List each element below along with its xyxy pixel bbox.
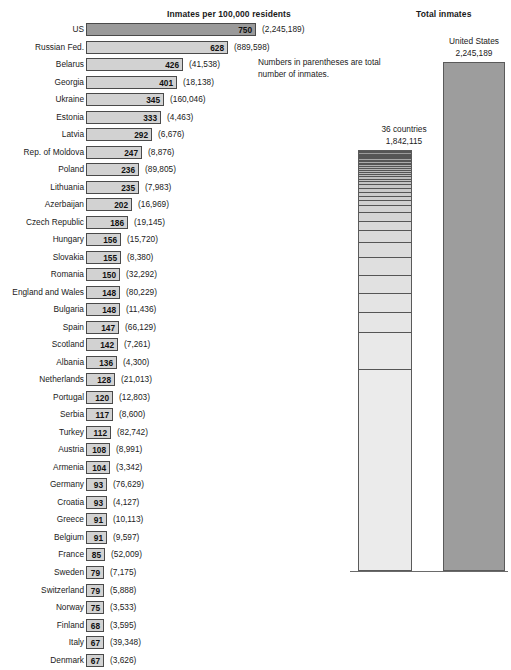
bar-value-label: 75 [91, 602, 100, 614]
value-bar: 117 [86, 408, 113, 421]
total-inmates-label: (3,595) [110, 620, 136, 631]
value-bar: 333 [86, 111, 161, 124]
total-inmates-label: (32,292) [126, 269, 157, 280]
value-bar: 136 [86, 356, 117, 369]
country-label: Switzerland [41, 585, 84, 596]
bar-value-label: 186 [110, 217, 124, 229]
value-bar: 104 [86, 461, 110, 474]
total-inmates-label: (16,969) [138, 199, 169, 210]
value-bar: 750 [86, 23, 256, 36]
bar-value-label: 93 [94, 479, 103, 491]
bar-value-label: 426 [165, 59, 179, 71]
value-bar: 147 [86, 321, 119, 334]
bar-value-label: 156 [103, 234, 117, 246]
value-bar: 202 [86, 198, 132, 211]
chart-row: Lithuania235(7,983) [0, 180, 350, 198]
bar-container: 85 [86, 548, 105, 561]
chart-row: Belgium91(9,597) [0, 530, 350, 548]
stack-segment [359, 294, 411, 313]
bar-container: 426 [86, 58, 183, 71]
total-inmates-label: (21,013) [121, 374, 152, 385]
bar-container: 79 [86, 584, 104, 597]
chart-row: France85(52,009) [0, 547, 350, 565]
us-bar-caption: United States 2,245,189 [422, 36, 511, 59]
chart-row: Germany93(76,629) [0, 477, 350, 495]
value-bar: 85 [86, 548, 105, 561]
value-bar: 68 [86, 619, 104, 632]
country-label: Turkey [59, 427, 84, 438]
bar-container: 628 [86, 41, 228, 54]
stack-segment [359, 333, 411, 369]
total-inmates-label: (4,127) [113, 497, 139, 508]
chart-row: Spain147(66,129) [0, 320, 350, 338]
bar-container: 120 [86, 391, 113, 404]
bar-container: 292 [86, 128, 152, 141]
bar-container: 91 [86, 531, 107, 544]
country-label: Netherlands [39, 374, 84, 385]
bar-value-label: 120 [95, 392, 109, 404]
total-inmates-label: (12,803) [119, 392, 150, 403]
value-bar: 93 [86, 478, 107, 491]
chart-row: Rep. of Moldova247(8,876) [0, 145, 350, 163]
value-bar: 150 [86, 268, 120, 281]
country-label: Slovakia [53, 252, 84, 263]
stack-segment [359, 313, 411, 333]
inmates-per-capita-chart: US750(2,245,189)Russian Fed.628(889,598)… [0, 22, 350, 670]
bar-container: 247 [86, 146, 142, 159]
bar-container: 104 [86, 461, 110, 474]
value-bar: 128 [86, 373, 115, 386]
stack-segment [359, 258, 411, 275]
bar-container: 79 [86, 566, 104, 579]
chart-row: Croatia93(4,127) [0, 495, 350, 513]
bar-container: 117 [86, 408, 113, 421]
bar-container: 333 [86, 111, 161, 124]
bar-value-label: 333 [143, 112, 157, 124]
total-inmates-label: (7,175) [110, 567, 136, 578]
country-label: Norway [56, 602, 84, 613]
country-label: Estonia [56, 112, 84, 123]
countries-bar-caption-line2: 1,842,115 [352, 136, 456, 148]
bar-value-label: 128 [97, 374, 111, 386]
bar-value-label: 235 [121, 182, 135, 194]
total-inmates-label: (52,009) [111, 549, 142, 560]
value-bar: 79 [86, 566, 104, 579]
chart-row: Greece91(10,113) [0, 512, 350, 530]
total-inmates-label: (19,145) [134, 217, 165, 228]
bar-value-label: 148 [102, 287, 116, 299]
value-bar: 156 [86, 233, 121, 246]
value-bar: 75 [86, 601, 104, 614]
left-chart-title: Inmates per 100,000 residents [167, 9, 291, 19]
country-label: England and Wales [12, 287, 84, 298]
chart-row: Azerbaijan202(16,969) [0, 197, 350, 215]
bar-container: 136 [86, 356, 117, 369]
bar-value-label: 142 [100, 339, 114, 351]
total-inmates-label: (3,533) [110, 602, 136, 613]
bar-value-label: 79 [91, 585, 100, 597]
bar-container: 147 [86, 321, 119, 334]
country-label: Belarus [56, 59, 84, 70]
stack-segment [359, 231, 411, 243]
chart-row: Turkey112(82,742) [0, 425, 350, 443]
chart-row: Ukraine345(160,046) [0, 92, 350, 110]
chart-row: Denmark67(3,626) [0, 653, 350, 670]
country-label: Sweden [54, 567, 84, 578]
bar-value-label: 292 [134, 129, 148, 141]
country-label: Italy [69, 637, 84, 648]
chart-row: US750(2,245,189) [0, 22, 350, 40]
bar-value-label: 150 [102, 269, 116, 281]
total-inmates-label: (10,113) [113, 514, 143, 525]
country-label: Scotland [52, 339, 84, 350]
chart-row: Poland236(89,805) [0, 162, 350, 180]
total-inmates-label: (3,342) [116, 462, 142, 473]
bar-container: 93 [86, 496, 107, 509]
country-label: Ukraine [55, 94, 84, 105]
value-bar: 79 [86, 584, 104, 597]
bar-value-label: 236 [121, 164, 135, 176]
chart-row: Bulgaria148(11,436) [0, 302, 350, 320]
stack-segment [359, 222, 411, 231]
total-inmates-label: (4,300) [123, 357, 149, 368]
value-bar: 236 [86, 163, 139, 176]
bar-value-label: 108 [92, 444, 106, 456]
bar-container: 112 [86, 426, 111, 439]
country-label: Austria [58, 444, 84, 455]
